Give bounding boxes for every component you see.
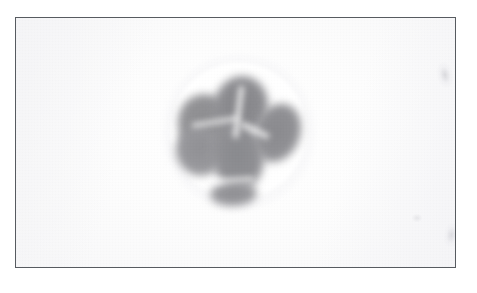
scan-artifact-speck <box>412 214 422 222</box>
cell-cluster-specimen <box>162 56 320 228</box>
micrograph-figure-frame <box>15 17 456 268</box>
screenshot-root: { "page": { "background_color": "#ffffff… <box>0 0 477 293</box>
ghost-text-strip <box>0 0 477 12</box>
